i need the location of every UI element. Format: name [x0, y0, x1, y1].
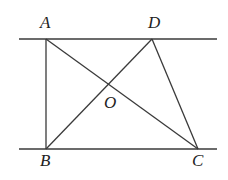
segment-bd: [46, 39, 152, 149]
label-b: B: [40, 152, 50, 169]
label-a: A: [40, 14, 50, 31]
label-c: C: [192, 152, 203, 169]
geometry-diagram: A D O B C: [0, 0, 228, 180]
label-d: D: [148, 14, 160, 31]
label-o: O: [104, 94, 116, 111]
